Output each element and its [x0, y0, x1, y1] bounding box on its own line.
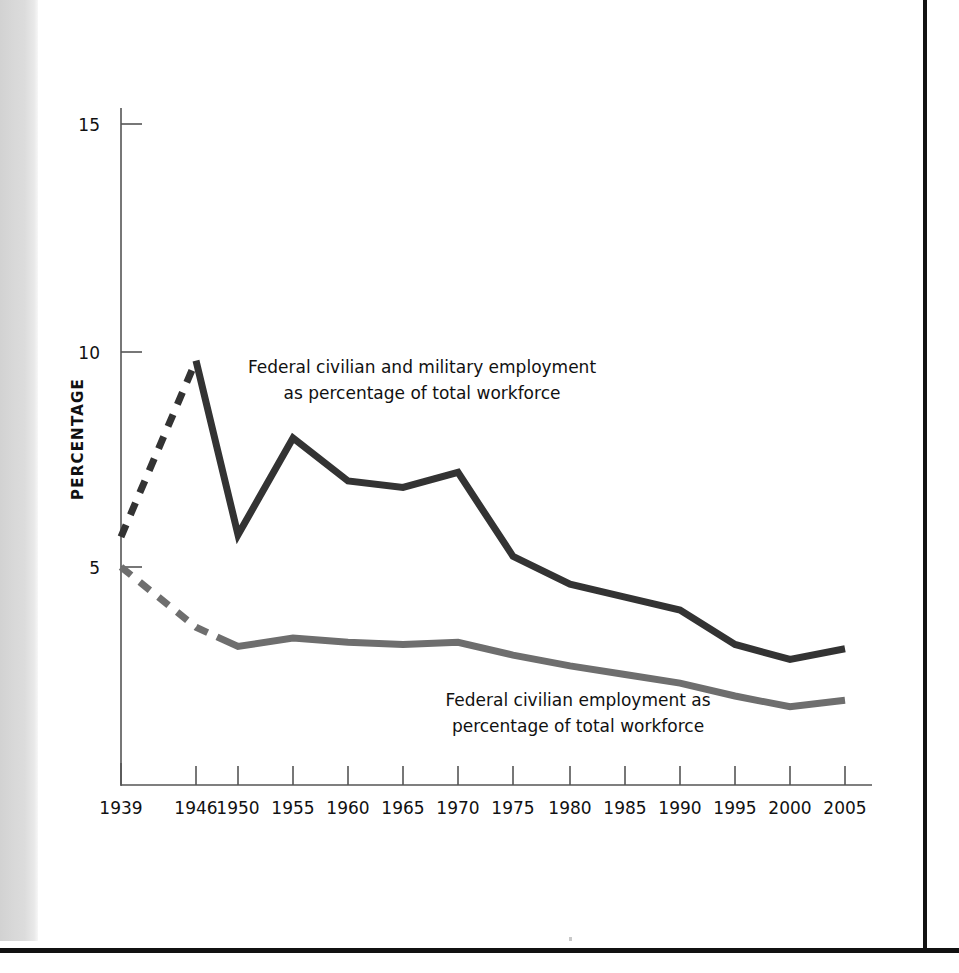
series-total-employment-dashed-segment — [121, 361, 196, 537]
annotation-civilian-employment: Federal civilian employment as percentag… — [398, 688, 758, 739]
y-axis-ticks — [121, 124, 142, 567]
x-tick-label-1950: 1950 — [208, 798, 268, 818]
x-tick-label-2005: 2005 — [815, 798, 875, 818]
x-tick-label-1985: 1985 — [595, 798, 655, 818]
x-tick-label-1955: 1955 — [263, 798, 323, 818]
y-tick-label-10: 10 — [60, 343, 100, 363]
x-tick-label-1975: 1975 — [483, 798, 543, 818]
y-tick-label-5: 5 — [60, 558, 100, 578]
series-civilian-employment-dashed-segment — [121, 567, 217, 637]
chart-axes — [121, 108, 872, 786]
scanned-page: PERCENTAGE 15 10 5 1939 1946 1950 1955 1… — [0, 0, 959, 973]
x-tick-label-1990: 1990 — [650, 798, 710, 818]
x-tick-label-2000: 2000 — [760, 798, 820, 818]
y-axis-title: PERCENTAGE — [69, 359, 87, 519]
chart-plot-area — [0, 0, 959, 973]
x-tick-label-1980: 1980 — [540, 798, 600, 818]
x-tick-label-1939: 1939 — [91, 798, 151, 818]
annotation-total-employment: Federal civilian and military employment… — [222, 355, 622, 406]
x-tick-label-1965: 1965 — [373, 798, 433, 818]
x-axis-ticks — [121, 763, 845, 785]
x-tick-label-1960: 1960 — [318, 798, 378, 818]
chart-series-group — [121, 361, 845, 707]
line-chart-figure: PERCENTAGE 15 10 5 1939 1946 1950 1955 1… — [0, 0, 959, 973]
x-tick-label-1995: 1995 — [705, 798, 765, 818]
y-tick-label-15: 15 — [60, 115, 100, 135]
x-tick-label-1970: 1970 — [428, 798, 488, 818]
